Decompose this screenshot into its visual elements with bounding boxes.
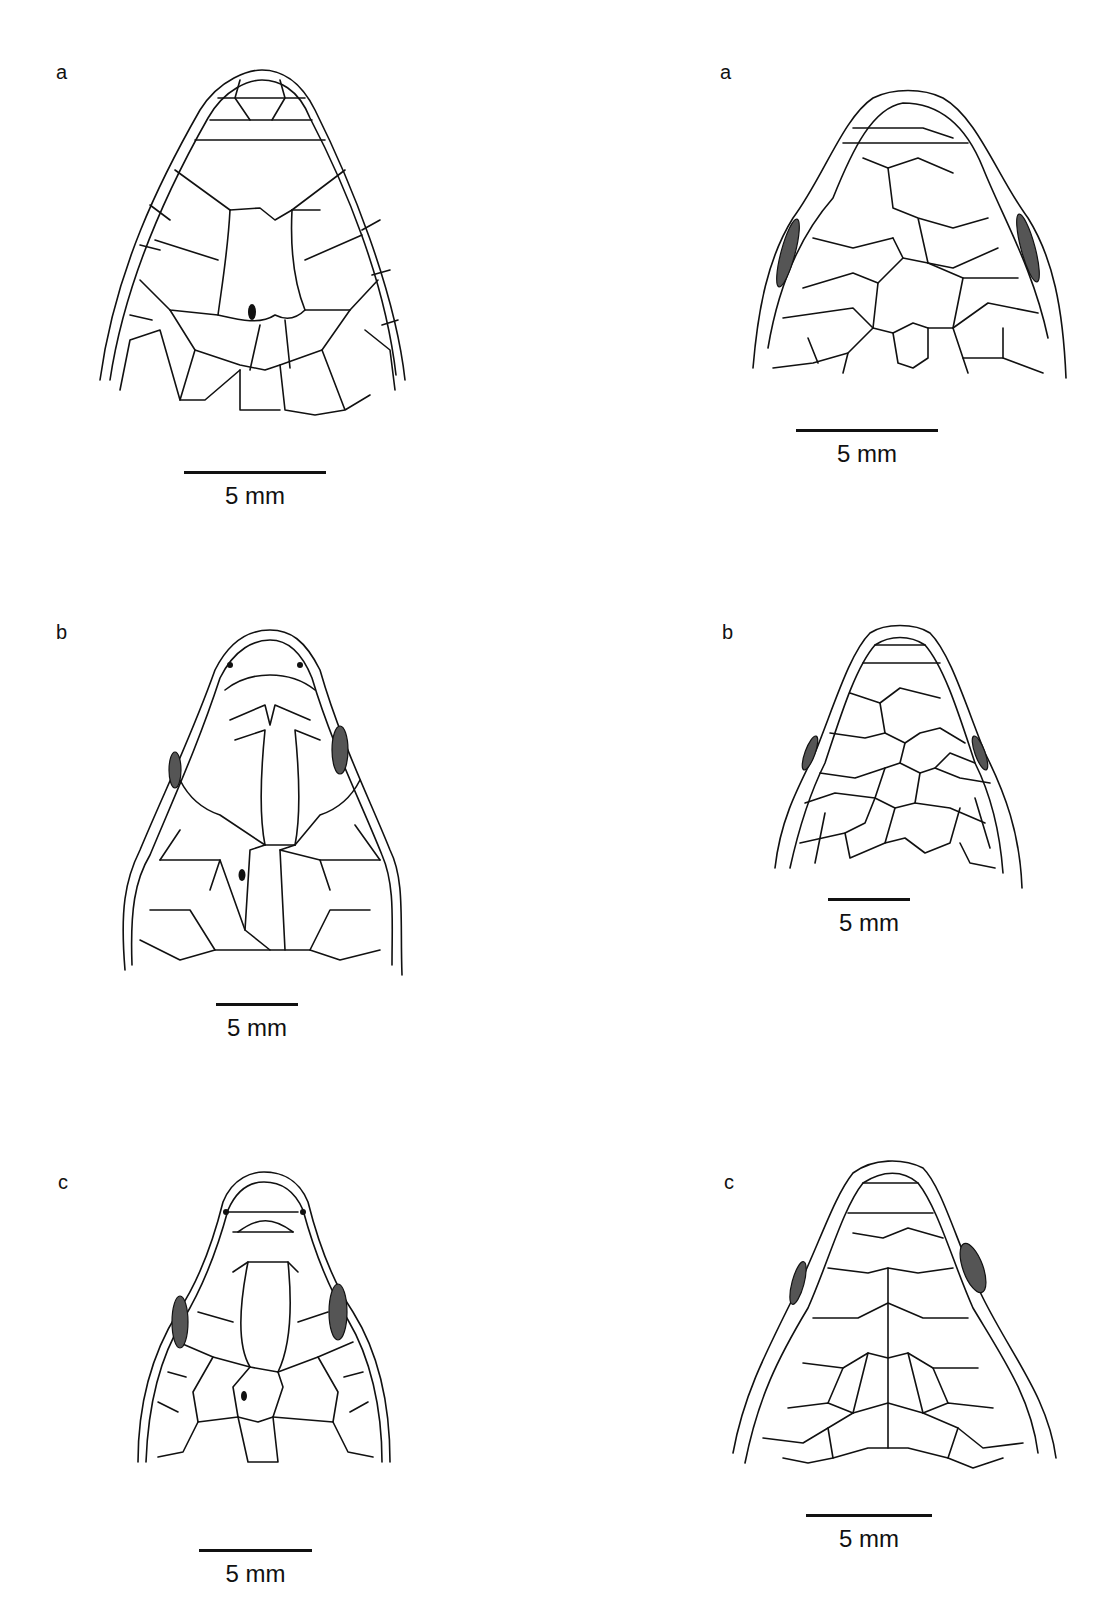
eye-right <box>329 1284 347 1340</box>
head-scale-illustration <box>775 623 1025 888</box>
scale-label: 5 mm <box>216 1014 298 1042</box>
panel-label: a <box>56 62 67 82</box>
panel-label: c <box>58 1172 68 1192</box>
scale-bar-line <box>828 898 910 901</box>
scale-bar: 5 mm <box>806 1514 932 1553</box>
head-scale-illustration <box>120 630 400 970</box>
head-drawing <box>775 623 1025 888</box>
head-drawing <box>120 630 400 970</box>
panel-label: a <box>720 62 731 82</box>
head-scale-illustration <box>100 70 410 420</box>
scale-bar-line <box>796 429 938 432</box>
head-drawing <box>138 1172 390 1472</box>
eye-right <box>332 726 348 774</box>
head-scale-illustration <box>733 1158 1056 1473</box>
parietal-eye <box>248 304 256 320</box>
head-drawing <box>100 70 410 420</box>
scale-bar: 5 mm <box>828 898 910 937</box>
head-scale-illustration <box>753 88 1066 388</box>
panel-left-b: b 5 mm <box>0 580 450 1060</box>
scale-bar: 5 mm <box>184 471 326 510</box>
scale-bar: 5 mm <box>796 429 938 468</box>
scale-bar: 5 mm <box>199 1549 312 1588</box>
scale-bar-line <box>199 1549 312 1552</box>
panel-label: b <box>722 622 733 642</box>
scale-bar: 5 mm <box>216 1003 298 1042</box>
head-drawing <box>753 88 1066 388</box>
scale-bar-line <box>216 1003 298 1006</box>
eye-left <box>787 1260 810 1306</box>
eye-left <box>172 1296 188 1348</box>
panel-label: b <box>56 622 67 642</box>
head-scale-illustration <box>138 1172 390 1472</box>
parietal-eye <box>241 1391 247 1401</box>
panel-right-c: c 5 mm <box>650 1120 1112 1618</box>
panel-right-a: a 5 mm <box>650 0 1112 500</box>
scale-bar-line <box>806 1514 932 1517</box>
panel-right-b: b 5 mm <box>650 580 1112 960</box>
eye-left <box>799 734 821 771</box>
head-drawing <box>733 1158 1056 1473</box>
panel-left-a: a 5 mm <box>0 0 450 520</box>
eye-left <box>169 752 181 788</box>
scale-label: 5 mm <box>184 482 326 510</box>
scale-bar-line <box>184 471 326 474</box>
eye-right <box>955 1240 992 1296</box>
scale-label: 5 mm <box>796 440 938 468</box>
scale-label: 5 mm <box>199 1560 312 1588</box>
scale-label: 5 mm <box>806 1525 932 1553</box>
scale-label: 5 mm <box>828 909 910 937</box>
panel-left-c: c 5 mm <box>0 1120 450 1618</box>
parietal-eye <box>239 869 246 881</box>
